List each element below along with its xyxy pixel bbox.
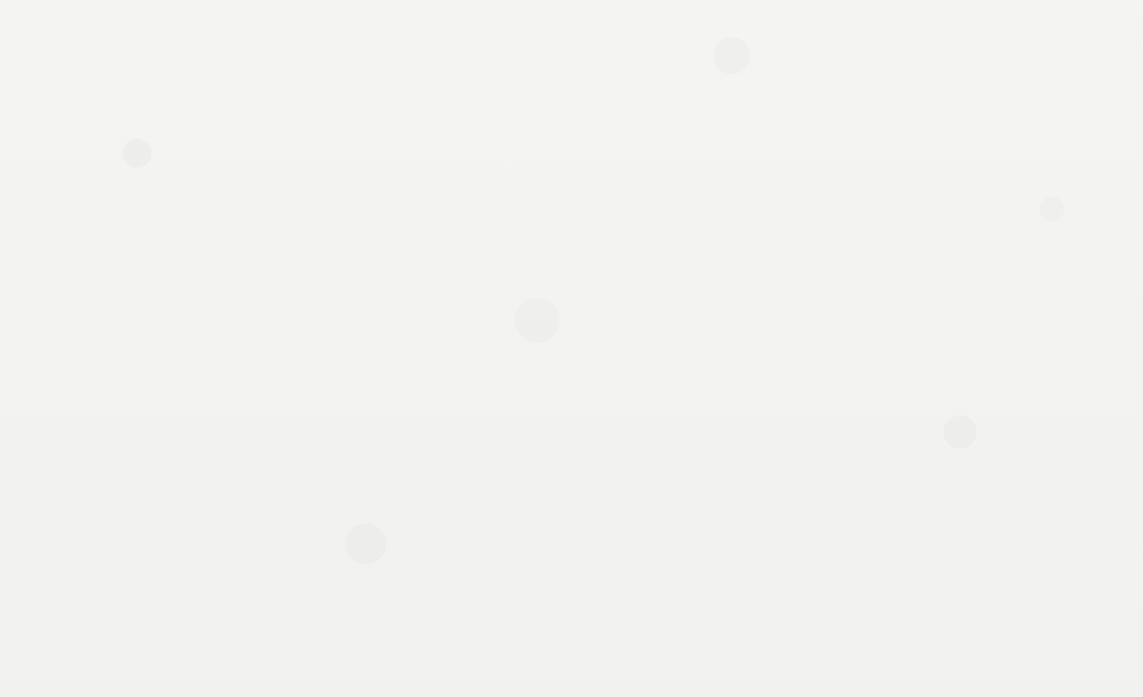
legend-swatch-icon — [869, 69, 888, 88]
y-axis-tick-label: 10% — [17, 492, 79, 516]
bar-group: 15%5%6% — [792, 43, 903, 594]
x-axis-label-line: America — [745, 629, 945, 654]
legend-item-1950[interactable]: 1950 — [759, 67, 834, 91]
legend-label: 2007 — [897, 67, 944, 91]
x-axis-label-line: Caribbean — [577, 654, 777, 679]
y-axis-tick-label: 50% — [17, 122, 79, 146]
bar-asia-2050[interactable] — [362, 94, 399, 594]
plot-area: 4%11%19%32%50%54%38%16%9%9%14%11%15%5%6%… — [92, 41, 1123, 597]
bar-oceania-1950[interactable] — [975, 585, 1012, 594]
legend-swatch-icon — [759, 69, 778, 88]
y-axis-tick-label: 30% — [17, 307, 79, 331]
bar-value-label: 38% — [452, 217, 494, 238]
bar-value-label: 54% — [358, 69, 400, 90]
bar-northern-america-2050[interactable] — [866, 538, 903, 594]
bar-europe-1950[interactable] — [456, 242, 493, 594]
y-axis-tick-label: 40% — [17, 214, 79, 238]
bar-chart-figure: 0%10%20%30%40%50%60% 4%11%19%32%50%54%38… — [0, 0, 1143, 697]
bar-value-label: 9% — [526, 486, 556, 507]
bar-northern-america-1950[interactable] — [792, 455, 829, 594]
y-axis-tick — [82, 505, 95, 507]
bar-value-label: 1% — [1008, 560, 1038, 581]
bar-europe-2050[interactable] — [530, 511, 567, 594]
bar-africa-1950[interactable] — [120, 557, 157, 594]
gridline — [95, 227, 1121, 229]
y-axis-tick-label: 60% — [17, 29, 79, 53]
legend-item-2050[interactable]: 2050 — [980, 67, 1055, 91]
legend-label: 2050 — [1008, 67, 1055, 91]
bar-value-label: 15% — [788, 430, 830, 451]
gridline — [95, 505, 1121, 507]
y-axis-tick — [82, 135, 95, 137]
bar-group: 1%1%1% — [975, 43, 1086, 594]
bar-value-label: 50% — [321, 106, 363, 127]
legend-label: 1950 — [787, 67, 834, 91]
bar-latin-america-and-the-caribbean-2007[interactable] — [661, 464, 698, 594]
legend-item-2007[interactable]: 2007 — [869, 67, 944, 91]
x-axis-label-line: Northern — [745, 604, 945, 629]
bar-africa-2007[interactable] — [157, 492, 194, 594]
bar-value-label: 9% — [620, 486, 650, 507]
x-axis-label-line: Oceania — [928, 604, 1128, 629]
y-axis-tick-label: 20% — [17, 400, 79, 424]
bar-value-label: 19% — [190, 393, 232, 414]
bar-group: 32%50%54% — [288, 43, 399, 594]
y-axis-tick-label: 0% — [17, 585, 79, 609]
legend-swatch-icon — [980, 69, 999, 88]
bar-value-label: 14% — [657, 439, 699, 460]
bar-group: 4%11%19% — [120, 43, 231, 594]
bar-group: 9%14%11% — [624, 43, 735, 594]
bar-value-label: 5% — [825, 523, 855, 544]
bar-value-label: 11% — [153, 467, 193, 488]
gridline — [95, 135, 1121, 137]
bar-northern-america-2007[interactable] — [829, 548, 866, 594]
gridline — [95, 320, 1121, 322]
bar-value-label: 1% — [971, 560, 1001, 581]
bar-value-label: 11% — [694, 467, 734, 488]
x-axis-label-oceania: Oceania — [928, 604, 1128, 629]
y-axis-tick — [82, 320, 95, 322]
y-axis-tick — [82, 42, 95, 44]
bar-latin-america-and-the-caribbean-2050[interactable] — [698, 492, 735, 594]
bar-africa-2050[interactable] — [194, 418, 231, 594]
y-axis-tick-labels: 0%10%20%30%40%50%60% — [4, 41, 79, 597]
bar-oceania-2050[interactable] — [1049, 585, 1086, 594]
bar-value-label: 4% — [116, 532, 146, 553]
bar-group: 38%16%9% — [456, 43, 567, 594]
y-axis-tick — [82, 227, 95, 229]
y-axis-tick — [82, 413, 95, 415]
x-axis-label-northern-america: NorthernAmerica — [745, 604, 945, 654]
y-axis-tick — [82, 598, 95, 600]
bar-latin-america-and-the-caribbean-1950[interactable] — [624, 511, 661, 594]
bar-value-label: 32% — [284, 272, 326, 293]
bar-oceania-2007[interactable] — [1012, 585, 1049, 594]
bar-asia-1950[interactable] — [288, 297, 325, 594]
bar-value-label: 1% — [1045, 560, 1075, 581]
gridline — [95, 413, 1121, 415]
bar-europe-2007[interactable] — [493, 446, 530, 594]
bar-asia-2007[interactable] — [325, 131, 362, 594]
bar-value-label: 6% — [862, 513, 892, 534]
bar-value-label: 16% — [489, 421, 531, 442]
legend: 195020072050 — [737, 58, 1063, 99]
